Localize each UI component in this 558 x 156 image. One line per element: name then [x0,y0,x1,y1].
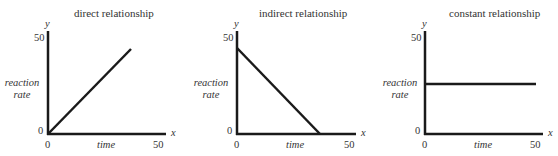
y-tick-max: 50 [223,32,234,43]
data-line-direct [48,49,131,134]
x-axis-letter: x [548,127,553,138]
x-axis-letter: x [361,127,366,138]
chart-direct-relationship: direct relationship y 50 0 reaction rate… [0,0,186,156]
x-tick-max: 50 [530,139,541,150]
x-tick-zero: 0 [422,139,427,150]
y-tick-zero: 0 [227,125,232,136]
x-axis-label: time [97,139,115,150]
chart-title: indirect relationship [259,7,347,19]
chart-constant-relationship: constant relationship y 50 0 reaction ra… [372,0,558,156]
y-tick-max: 50 [411,32,422,43]
y-axis-label: reaction rate [189,77,233,101]
y-tick-zero: 0 [38,125,43,136]
chart-indirect-relationship: indirect relationship y 50 0 reaction ra… [186,0,372,156]
x-axis-letter: x [171,127,176,138]
y-axis-label: reaction rate [0,77,44,101]
y-tick-zero: 0 [415,125,420,136]
chart-title: constant relationship [449,7,540,19]
data-line-indirect [237,48,320,134]
x-tick-zero: 0 [45,139,50,150]
x-axis-label: time [474,139,492,150]
x-tick-zero: 0 [234,139,239,150]
x-axis-label: time [286,139,304,150]
x-tick-max: 50 [344,139,355,150]
chart-title: direct relationship [74,7,154,19]
y-axis-label: reaction rate [378,77,422,101]
y-axis-letter: y [45,18,50,29]
x-tick-max: 50 [153,139,164,150]
y-axis-letter: y [234,18,239,29]
y-axis-letter: y [422,18,427,29]
y-tick-max: 50 [34,32,45,43]
